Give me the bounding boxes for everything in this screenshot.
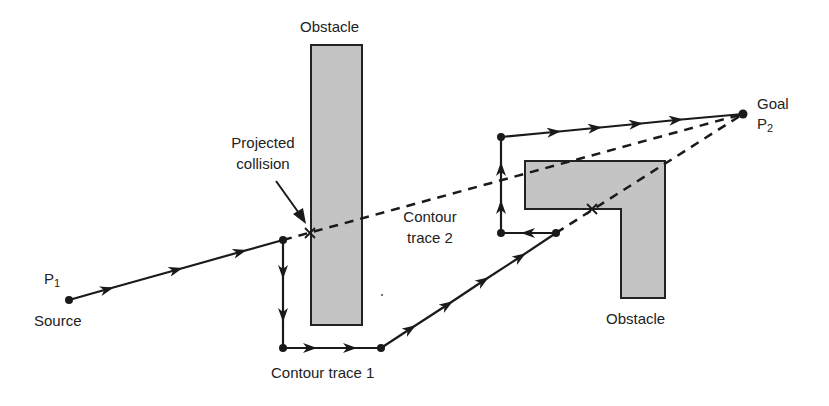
path-planning-diagram <box>0 0 829 406</box>
obstacle-bottom-label: Obstacle <box>606 310 665 328</box>
contour-trace-2-label: Contour trace 2 <box>398 208 462 247</box>
goal-point <box>739 110 748 119</box>
projected-collision-line2: collision <box>222 155 304 173</box>
contour-trace-2-line2: trace 2 <box>398 229 462 247</box>
source-point-subscript: 1 <box>54 277 60 289</box>
obstacle-top-label: Obstacle <box>300 18 359 36</box>
goal-point-letter: P <box>757 115 767 132</box>
obstacle-tall-rect <box>311 45 362 325</box>
contour-trace-1-label: Contour trace 1 <box>271 364 374 382</box>
collision-callout-arrow <box>276 181 306 224</box>
contour-trace-2-line1: Contour <box>398 208 462 226</box>
vertex-1 <box>279 236 287 244</box>
source-label: Source <box>34 312 82 330</box>
vertex-3 <box>377 344 385 352</box>
projected-collision-line1: Projected <box>222 134 304 152</box>
projected-collision-label: Projected collision <box>222 134 304 173</box>
vertex-6 <box>497 133 505 141</box>
vertex-2 <box>279 344 287 352</box>
vertex-5 <box>497 229 505 237</box>
source-point-label: P1 <box>44 270 60 292</box>
goal-point-label: P2 <box>757 115 773 137</box>
goal-label: Goal <box>757 95 789 113</box>
source-point-letter: P <box>44 270 54 287</box>
speck <box>381 294 383 296</box>
obstacle-L-shape <box>525 161 665 298</box>
source-point <box>65 296 73 304</box>
goal-point-subscript: 2 <box>767 122 773 134</box>
vertex-4 <box>552 229 560 237</box>
